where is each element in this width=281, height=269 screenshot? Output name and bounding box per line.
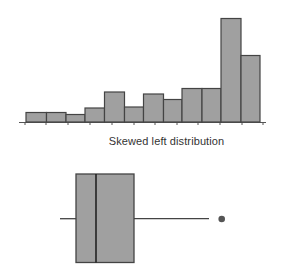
histogram-bar xyxy=(221,19,241,123)
boxplot xyxy=(60,174,225,263)
histogram-bar xyxy=(125,107,144,122)
histogram-bar xyxy=(164,100,183,123)
histogram-bar xyxy=(241,56,260,123)
histogram-bar xyxy=(66,115,85,123)
histogram xyxy=(19,19,266,126)
histogram-bar xyxy=(85,108,105,122)
histogram-bar xyxy=(105,92,125,122)
histogram-bar xyxy=(26,113,47,123)
histogram-bar xyxy=(182,89,202,123)
histogram-bar xyxy=(202,89,221,123)
iqr-box xyxy=(76,174,134,263)
outlier-point xyxy=(218,216,225,223)
histogram-bar xyxy=(47,113,67,123)
chart-title: Skewed left distribution xyxy=(0,135,281,147)
histogram-bar xyxy=(144,94,164,122)
